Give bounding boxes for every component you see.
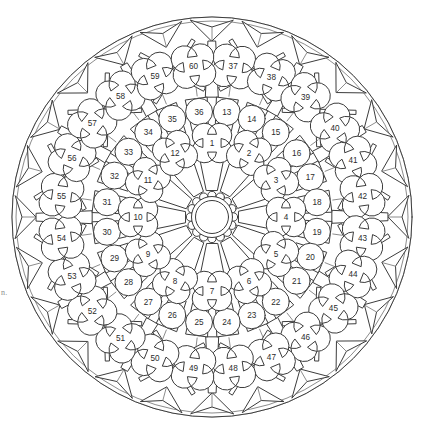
hub-inner-circle xyxy=(196,201,229,234)
rose-window-diagram: 1234567891011121314151617181920212223242… xyxy=(0,0,423,429)
central-hub-layer xyxy=(186,191,237,242)
panel-shape-54 xyxy=(39,216,84,261)
panel-shape-20 xyxy=(297,243,324,270)
panel-shape-31 xyxy=(94,189,121,216)
edge-artifact-text: n. xyxy=(1,288,7,297)
rose-window-svg: 1234567891011121314151617181920212223242… xyxy=(0,0,423,429)
panel-shape-10 xyxy=(118,197,158,237)
panel-shape-35 xyxy=(159,105,186,132)
panel-shape-60 xyxy=(171,44,216,89)
panel-shape-18 xyxy=(303,189,330,216)
panel-shape-42 xyxy=(340,173,385,218)
panel-shape-24 xyxy=(213,308,240,335)
panel-shape-7 xyxy=(192,271,232,311)
panel-shape-14 xyxy=(238,105,265,132)
panel-shape-48 xyxy=(211,345,256,390)
panel-shape-29 xyxy=(101,245,128,272)
panel-shape-32 xyxy=(101,162,128,189)
panel-shape-17 xyxy=(297,164,324,191)
panel-shape-1 xyxy=(192,123,232,163)
panel-shape-25 xyxy=(186,309,213,336)
panel-shape-23 xyxy=(238,302,265,329)
panel-shape-19 xyxy=(303,218,330,245)
panel-shape-30 xyxy=(94,218,121,245)
panel-shape-4 xyxy=(266,197,306,237)
panel-shape-26 xyxy=(159,302,186,329)
panel-shape-13 xyxy=(213,99,240,126)
panel-shape-36 xyxy=(186,98,213,125)
